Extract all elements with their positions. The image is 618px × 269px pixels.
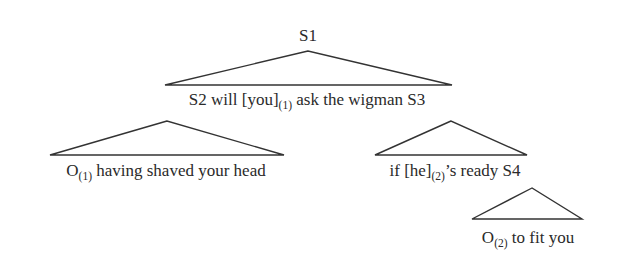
node-s3-text-b: ’s ready S4 xyxy=(445,161,521,180)
node-s3-if: if [he](2)’s ready S4 xyxy=(390,161,521,181)
triangle-s4 xyxy=(472,188,582,219)
node-s1-label: S1 xyxy=(299,26,317,45)
node-o2: O(2) to fit you xyxy=(482,228,574,248)
node-s2-text-b: ask the wigman S3 xyxy=(292,90,425,109)
node-s3-text-a: if [he] xyxy=(390,161,432,180)
triangle-s1 xyxy=(165,51,452,85)
node-s2-index: (1) xyxy=(279,99,292,111)
triangle-s2 xyxy=(50,121,284,155)
node-o1: O(1) having shaved your head xyxy=(66,161,265,181)
node-o2-index: (2) xyxy=(494,237,507,249)
node-s2-text-a: S2 will [you] xyxy=(189,90,279,109)
node-s3-index: (2) xyxy=(432,170,445,182)
triangle-s3 xyxy=(375,121,527,155)
node-s2-s3: S2 will [you](1) ask the wigman S3 xyxy=(189,90,425,110)
node-o1-text-b: having shaved your head xyxy=(92,161,266,180)
node-o2-text-b: to fit you xyxy=(508,228,575,247)
node-s1: S1 xyxy=(299,26,317,46)
node-o1-index: (1) xyxy=(79,170,92,182)
node-o1-text-a: O xyxy=(66,161,78,180)
node-o2-text-a: O xyxy=(482,228,494,247)
